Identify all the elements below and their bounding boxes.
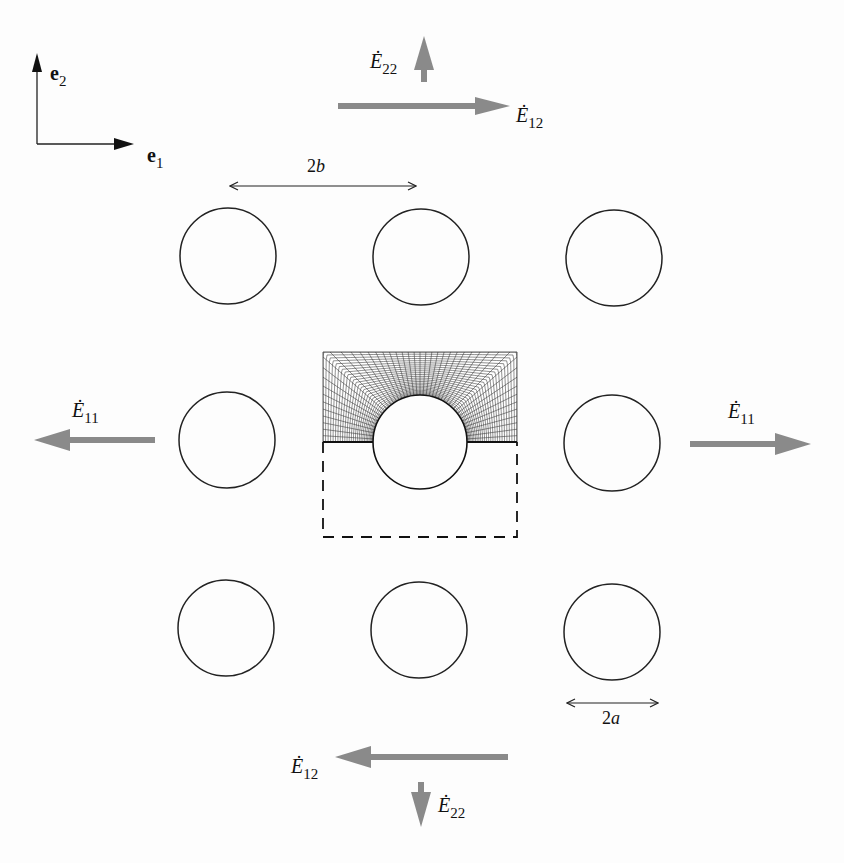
e11-left-shaft [68, 437, 155, 443]
e11-right-shaft [690, 441, 778, 447]
central-inclusion [373, 395, 467, 489]
e12-bottom-label: Ė12 [290, 755, 318, 782]
spacing-label: 2b [307, 156, 325, 176]
diameter-label: 2a [602, 708, 620, 728]
e12-top-shaft [338, 103, 478, 109]
spacing-dimension: 2b [230, 156, 416, 186]
e12-left-arrow-icon [335, 746, 371, 768]
e1-arrowhead-icon [114, 138, 134, 150]
inclusion-r3c1 [178, 580, 274, 676]
top-loads: Ė22 Ė12 [338, 36, 543, 131]
basis-vectors: e2 e1 [32, 53, 163, 171]
inclusion-r1c2 [373, 209, 469, 305]
e12-top-label: Ė12 [515, 104, 543, 131]
e11-right-label: Ė11 [727, 400, 755, 427]
e11-right-arrow-icon [775, 433, 811, 455]
inclusion-r3c2 [371, 582, 467, 678]
inclusion-r2c3 [564, 395, 660, 491]
e11-left-arrow-icon [34, 429, 70, 451]
e11-left-label: Ė11 [71, 399, 99, 426]
unit-cell-mesh [323, 352, 517, 442]
inclusion-grid [178, 208, 662, 680]
e22-down-arrow-icon [411, 792, 431, 827]
e2-arrowhead-icon [32, 53, 42, 72]
e22-top-label: Ė22 [369, 50, 397, 77]
e22-bottom-label: Ė22 [437, 794, 465, 821]
inclusion-r1c1 [180, 208, 276, 304]
e1-label: e1 [147, 144, 163, 171]
e12-right-arrow-icon [475, 97, 510, 115]
e22-up-arrow-icon [414, 36, 434, 70]
diameter-dimension: 2a [567, 703, 658, 728]
inclusion-r3c3 [564, 584, 660, 680]
e12-bottom-shaft [368, 754, 508, 760]
inclusion-r1c3 [566, 210, 662, 306]
side-loads: Ė11 Ė11 [34, 399, 811, 455]
figure-canvas: e2 e1 Ė22 Ė12 2b [0, 0, 844, 863]
inclusion-r2c1 [179, 392, 275, 488]
bottom-loads: Ė12 Ė22 [290, 746, 508, 827]
e2-label: e2 [50, 62, 66, 89]
